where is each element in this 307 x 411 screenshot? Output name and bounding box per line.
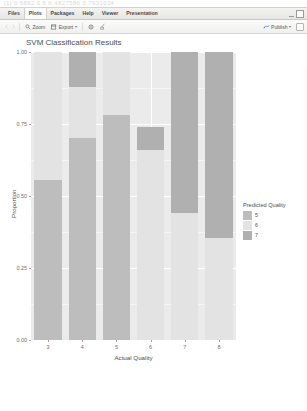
export-label: Export bbox=[59, 24, 73, 30]
legend-color-swatch bbox=[243, 211, 252, 220]
bar-segment bbox=[171, 52, 198, 213]
bar-segment bbox=[69, 138, 96, 340]
y-axis-tick-label: 1.00 bbox=[17, 49, 28, 55]
plot-area: SVM Classification Results 0.000.250.500… bbox=[0, 34, 307, 379]
broom-clear-icon bbox=[100, 23, 106, 30]
legend-entry-label: 7 bbox=[255, 232, 258, 238]
y-axis-tick-label: 0.00 bbox=[17, 337, 28, 343]
x-axis-tick-mark bbox=[48, 340, 49, 342]
console-ghost-text: [1] 0.5862 0.6 0.4827586 0.7931034 bbox=[4, 0, 114, 6]
magnifier-icon bbox=[25, 24, 31, 30]
tab-presentation[interactable]: Presentation bbox=[122, 8, 161, 19]
bar-stack bbox=[103, 52, 130, 340]
legend-entry: 6 bbox=[243, 221, 303, 230]
bar-segment bbox=[205, 238, 232, 340]
tab-help[interactable]: Help bbox=[78, 8, 97, 19]
chart-title: SVM Classification Results bbox=[26, 38, 122, 47]
remove-plot-icon bbox=[88, 24, 94, 30]
y-axis-tick-label: 0.50 bbox=[17, 193, 28, 199]
remove-plot-button[interactable] bbox=[85, 24, 97, 30]
bar-stack bbox=[171, 52, 198, 340]
legend-color-swatch bbox=[243, 221, 252, 230]
y-axis-tick-label: 0.75 bbox=[17, 121, 28, 127]
y-axis-tick-mark bbox=[29, 124, 31, 125]
forward-arrow-icon[interactable] bbox=[10, 23, 17, 30]
tab-packages[interactable]: Packages bbox=[47, 8, 79, 19]
bar-segment bbox=[205, 52, 232, 238]
bar-segment bbox=[103, 52, 130, 115]
legend-entry-label: 5 bbox=[255, 212, 258, 218]
y-axis-tick-label: 0.25 bbox=[17, 265, 28, 271]
bar-segment bbox=[137, 127, 164, 150]
bar-segment bbox=[69, 52, 96, 87]
legend-color-swatch bbox=[243, 231, 252, 240]
bar-stack bbox=[137, 52, 164, 340]
maximize-icon[interactable] bbox=[296, 10, 304, 18]
toolbar-separator bbox=[82, 23, 83, 31]
y-axis-tick-mark bbox=[29, 52, 31, 53]
panel-options-icon[interactable] bbox=[296, 23, 304, 31]
pane-tabbar: Files Plots Packages Help Viewer Present… bbox=[0, 7, 307, 20]
zoom-label: Zoom bbox=[33, 24, 46, 30]
x-axis-tick-mark bbox=[185, 340, 186, 342]
bar-segment bbox=[103, 115, 130, 340]
y-axis-label: Proportion bbox=[10, 189, 17, 218]
export-button[interactable]: Export ▾ bbox=[48, 24, 79, 30]
window-controls bbox=[289, 10, 304, 18]
tab-plots[interactable]: Plots bbox=[24, 8, 47, 19]
x-axis-label: Actual Quality bbox=[31, 354, 236, 361]
y-axis-tick-mark bbox=[29, 196, 31, 197]
tab-files[interactable]: Files bbox=[4, 8, 24, 19]
bar-segment bbox=[69, 87, 96, 139]
vertical-scrollbar[interactable] bbox=[303, 66, 307, 411]
toolbar-right-group: Publish ▾ bbox=[260, 23, 304, 31]
clear-plots-button[interactable] bbox=[97, 23, 109, 30]
chart-bars-layer bbox=[31, 52, 236, 340]
bar-stack bbox=[205, 52, 232, 340]
legend-entry-label: 6 bbox=[255, 222, 258, 228]
bar-segment bbox=[34, 180, 61, 340]
plots-toolbar: Zoom Export ▾ Publish ▾ bbox=[0, 20, 307, 34]
tab-viewer[interactable]: Viewer bbox=[98, 8, 123, 19]
legend-entry: 5 bbox=[243, 211, 303, 220]
bar-segment bbox=[171, 213, 198, 340]
x-axis-tick-mark bbox=[82, 340, 83, 342]
y-axis-tick-mark bbox=[29, 268, 31, 269]
x-axis-tick-mark bbox=[116, 340, 117, 342]
gridline-horizontal bbox=[31, 340, 236, 341]
x-axis-tick-label: 7 bbox=[175, 344, 195, 350]
bar-stack bbox=[34, 52, 61, 340]
zoom-button[interactable]: Zoom bbox=[22, 24, 48, 30]
minimize-icon[interactable] bbox=[289, 12, 294, 17]
publish-icon bbox=[263, 24, 270, 30]
y-axis-tick-mark bbox=[29, 340, 31, 341]
x-axis-tick-label: 5 bbox=[106, 344, 126, 350]
toolbar-separator bbox=[19, 23, 20, 31]
legend-title: Predicted Quality bbox=[243, 202, 303, 208]
bar-stack bbox=[69, 52, 96, 340]
legend-entry: 7 bbox=[243, 231, 303, 240]
bar-segment bbox=[137, 150, 164, 340]
window-top-artifact: [1] 0.5862 0.6 0.4827586 0.7931034 bbox=[0, 0, 307, 7]
export-icon bbox=[51, 24, 57, 30]
x-axis-tick-mark bbox=[219, 340, 220, 342]
chart-legend: Predicted Quality 567 bbox=[243, 202, 303, 241]
legend-entries: 567 bbox=[243, 211, 303, 240]
x-axis-tick-label: 6 bbox=[141, 344, 161, 350]
publish-label: Publish bbox=[271, 24, 287, 30]
back-arrow-icon[interactable] bbox=[3, 23, 10, 30]
x-axis-tick-label: 3 bbox=[38, 344, 58, 350]
publish-caret-icon: ▾ bbox=[289, 25, 291, 29]
bar-segment bbox=[34, 52, 61, 180]
publish-button[interactable]: Publish ▾ bbox=[260, 24, 294, 30]
x-axis-tick-label: 8 bbox=[209, 344, 229, 350]
export-caret-icon: ▾ bbox=[75, 25, 77, 29]
x-axis-tick-mark bbox=[151, 340, 152, 342]
x-axis-tick-label: 4 bbox=[72, 344, 92, 350]
